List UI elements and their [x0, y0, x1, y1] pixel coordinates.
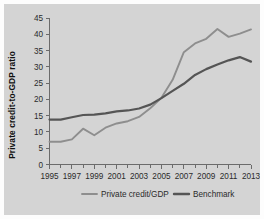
y-tick-label: 30	[34, 63, 44, 72]
series-lines	[50, 29, 252, 142]
x-tick-label: 2003	[130, 172, 149, 181]
y-tick-label: 10	[34, 128, 44, 137]
x-tick-label: 2011	[220, 172, 238, 181]
legend-label: Benchmark	[193, 190, 235, 199]
x-tick-label: 2001	[108, 172, 127, 181]
x-tick-label: 1999	[85, 172, 104, 181]
y-tick-label: 15	[34, 112, 44, 121]
chart-figure: Private credit-to-GDP ratio 051015202530…	[0, 0, 264, 219]
series-line-benchmark	[50, 57, 252, 120]
y-tick-label: 0	[38, 161, 43, 170]
y-axis-label: Private credit-to-GDP ratio	[7, 51, 17, 159]
chart-panel: Private credit-to-GDP ratio 051015202530…	[4, 4, 260, 215]
y-tick-label: 20	[34, 95, 44, 104]
y-tick-label: 35	[34, 47, 44, 56]
series-line-private-credit-gdp	[50, 29, 252, 142]
x-tick-label: 2007	[175, 172, 194, 181]
line-chart: Private credit-to-GDP ratio 051015202530…	[4, 4, 260, 215]
x-tick-label: 1997	[63, 172, 82, 181]
y-axis-ticks: 051015202530354045	[34, 14, 50, 170]
y-axis-label-text: Private credit-to-GDP ratio	[7, 51, 17, 159]
chart-legend: Private credit/GDPBenchmark	[82, 190, 235, 199]
x-tick-label: 2013	[242, 172, 260, 181]
y-tick-label: 40	[34, 30, 44, 39]
x-axis-ticks: 1995199719992001200320052007200920112013	[40, 165, 260, 181]
x-tick-label: 1995	[40, 172, 59, 181]
x-tick-label: 2005	[152, 172, 171, 181]
y-tick-label: 45	[34, 14, 44, 23]
y-tick-label: 5	[38, 144, 43, 153]
y-tick-label: 25	[34, 79, 44, 88]
legend-label: Private credit/GDP	[101, 190, 169, 199]
x-tick-label: 2009	[197, 172, 216, 181]
